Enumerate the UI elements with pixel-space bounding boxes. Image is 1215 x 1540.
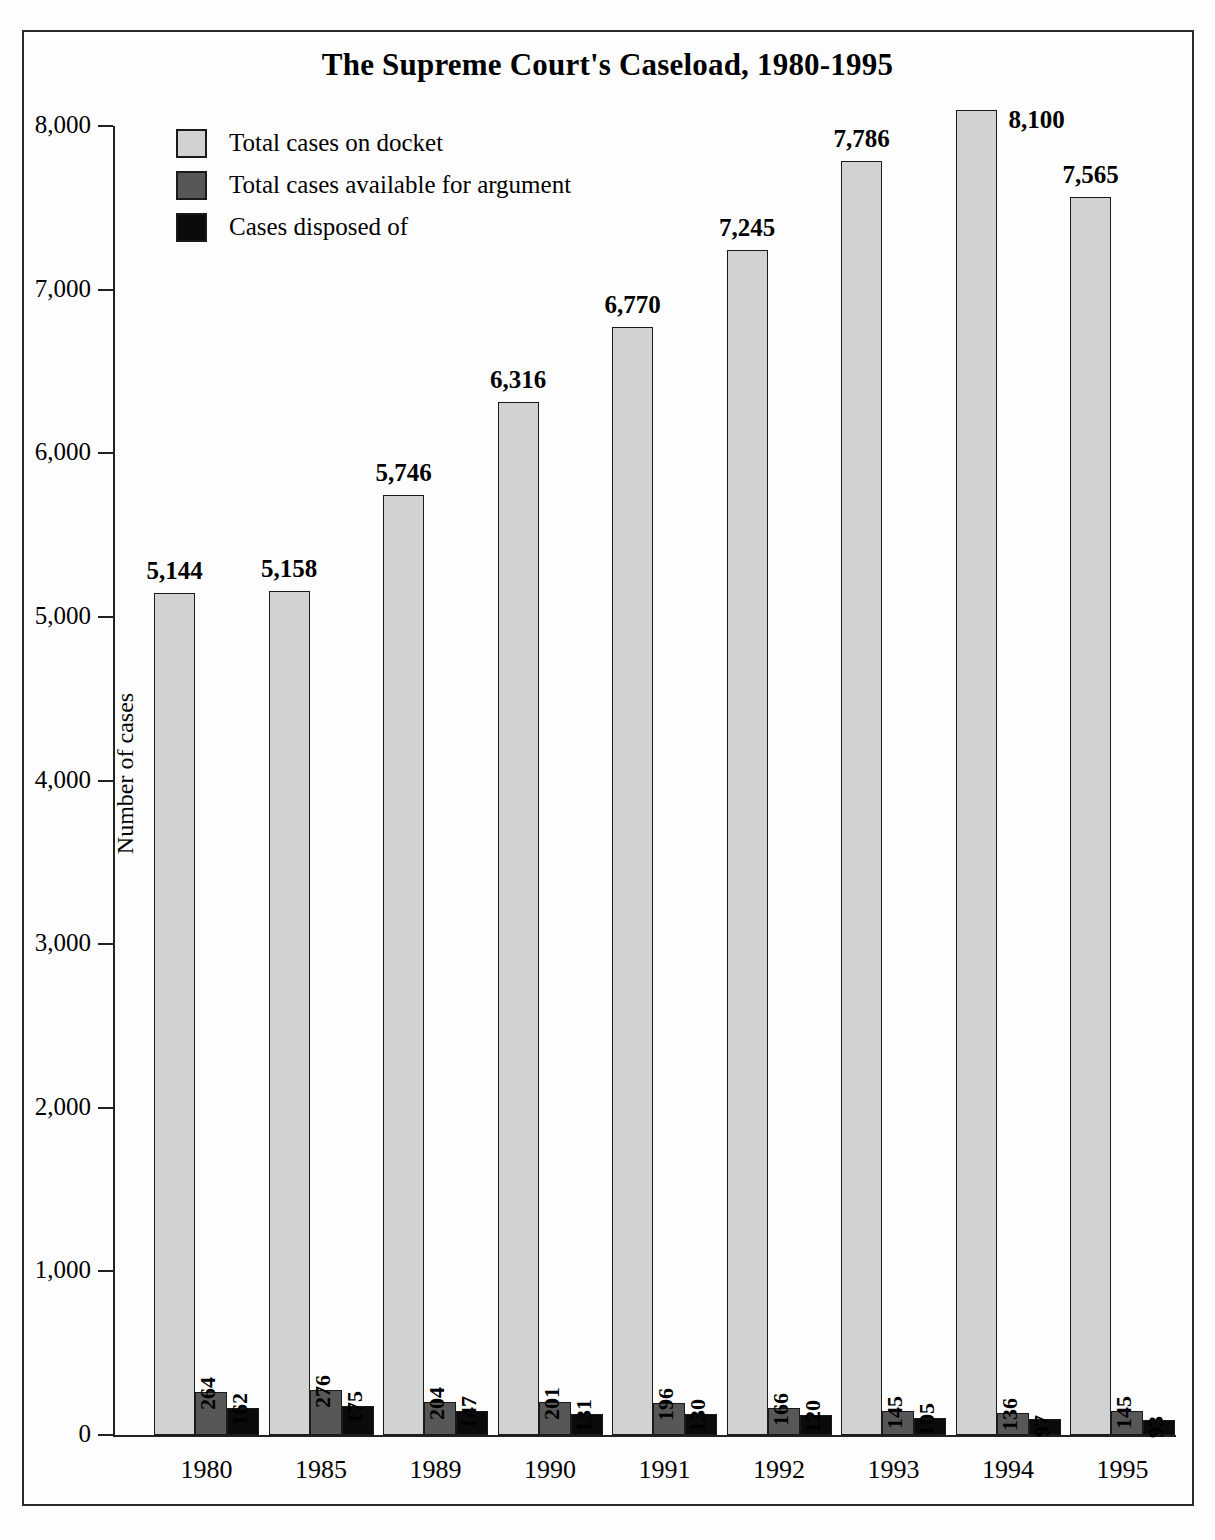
- bar: [841, 161, 882, 1435]
- legend-item-available: Total cases available for argument: [176, 164, 571, 206]
- bar-value-label: 97: [1029, 1415, 1055, 1437]
- legend-swatch-disposed: [176, 213, 207, 242]
- legend-swatch-docket: [176, 129, 207, 158]
- bar-value-label: 5,746: [375, 459, 431, 487]
- y-tick: 7,000: [0, 289, 113, 291]
- x-axis-line: [113, 1435, 1176, 1437]
- y-tick-label: 0: [1, 1421, 91, 1446]
- bar-value-label: 131: [571, 1399, 597, 1432]
- y-tick-mark: [98, 1434, 113, 1436]
- y-tick-label: 3,000: [1, 930, 91, 955]
- bar-value-label: 136: [997, 1398, 1023, 1431]
- bar: [383, 495, 424, 1435]
- bar-value-label: 162: [227, 1393, 253, 1426]
- x-axis-label: 1992: [719, 1455, 839, 1485]
- x-axis-label: 1993: [834, 1455, 954, 1485]
- y-tick: 1,000: [0, 1270, 113, 1272]
- y-tick-mark: [98, 616, 113, 618]
- y-tick: 6,000: [0, 452, 113, 454]
- legend-item-disposed: Cases disposed of: [176, 206, 571, 248]
- bar-value-label: 130: [685, 1399, 711, 1432]
- bar-value-label: 201: [539, 1387, 565, 1420]
- bar-value-label: 196: [653, 1388, 679, 1421]
- legend-label-disposed: Cases disposed of: [229, 213, 408, 241]
- legend-label-available: Total cases available for argument: [229, 171, 571, 199]
- y-tick-label: 4,000: [1, 767, 91, 792]
- y-tick-label: 8,000: [1, 112, 91, 137]
- figure-border: [22, 30, 1194, 1506]
- bar: [498, 402, 539, 1435]
- bar-value-label: 6,770: [604, 291, 660, 319]
- y-tick: 5,000: [0, 616, 113, 618]
- y-axis-title: Number of cases: [112, 644, 139, 904]
- y-tick-mark: [98, 1270, 113, 1272]
- bar-value-label: 7,245: [719, 214, 775, 242]
- bar-value-label: 7,786: [833, 125, 889, 153]
- y-tick: 4,000: [0, 780, 113, 782]
- y-tick: 3,000: [0, 943, 113, 945]
- y-tick-mark: [98, 452, 113, 454]
- bar-value-label: 6,316: [490, 366, 546, 394]
- chart-legend: Total cases on docket Total cases availa…: [176, 122, 571, 248]
- chart-title: The Supreme Court's Caseload, 1980-1995: [0, 47, 1215, 83]
- bar-value-label: 120: [800, 1400, 826, 1433]
- bar-value-label: 93: [1143, 1416, 1169, 1438]
- y-tick-mark: [98, 1107, 113, 1109]
- y-tick: 2,000: [0, 1107, 113, 1109]
- bar-value-label: 276: [310, 1375, 336, 1408]
- y-tick-label: 5,000: [1, 603, 91, 628]
- x-axis-label: 1989: [376, 1455, 496, 1485]
- bar: [269, 591, 310, 1435]
- x-axis-label: 1995: [1063, 1455, 1183, 1485]
- bar-value-label: 5,144: [146, 557, 202, 585]
- y-tick: 8,000: [0, 125, 113, 127]
- y-tick-label: 6,000: [1, 439, 91, 464]
- bar-value-label: 264: [195, 1377, 221, 1410]
- bar: [727, 250, 768, 1435]
- y-tick-label: 1,000: [1, 1257, 91, 1282]
- bar-value-label: 145: [1111, 1396, 1137, 1429]
- y-tick-mark: [98, 289, 113, 291]
- y-tick: 0: [0, 1434, 113, 1436]
- legend-item-docket: Total cases on docket: [176, 122, 571, 164]
- bar-value-label: 8,100: [1009, 106, 1065, 134]
- x-axis-label: 1991: [605, 1455, 725, 1485]
- chart-page: The Supreme Court's Caseload, 1980-1995 …: [0, 0, 1215, 1540]
- x-axis-label: 1990: [490, 1455, 610, 1485]
- legend-swatch-available: [176, 171, 207, 200]
- x-axis-label: 1985: [261, 1455, 381, 1485]
- y-tick-mark: [98, 943, 113, 945]
- bar-value-label: 105: [914, 1403, 940, 1436]
- y-tick-label: 2,000: [1, 1094, 91, 1119]
- bar: [956, 110, 997, 1435]
- y-tick-mark: [98, 125, 113, 127]
- bar-value-label: 204: [424, 1387, 450, 1420]
- bar-value-label: 147: [456, 1396, 482, 1429]
- bar-value-label: 5,158: [261, 555, 317, 583]
- bar-value-label: 175: [342, 1391, 368, 1424]
- bar: [612, 327, 653, 1435]
- bar-value-label: 145: [882, 1396, 908, 1429]
- y-tick-label: 7,000: [1, 276, 91, 301]
- legend-label-docket: Total cases on docket: [229, 129, 443, 157]
- bar-value-label: 166: [768, 1393, 794, 1426]
- bar: [154, 593, 195, 1435]
- x-axis-label: 1994: [948, 1455, 1068, 1485]
- bar-value-label: 7,565: [1062, 161, 1118, 189]
- x-axis-label: 1980: [147, 1455, 267, 1485]
- bar: [1070, 197, 1111, 1435]
